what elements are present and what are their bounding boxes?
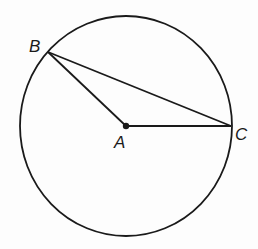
label-c: C xyxy=(235,126,247,143)
circle-diagram: B A C xyxy=(0,0,258,249)
label-b: B xyxy=(29,38,40,55)
segment-bc xyxy=(48,52,231,126)
label-a: A xyxy=(114,134,125,151)
segment-ab xyxy=(48,52,126,126)
center-point xyxy=(123,123,129,129)
